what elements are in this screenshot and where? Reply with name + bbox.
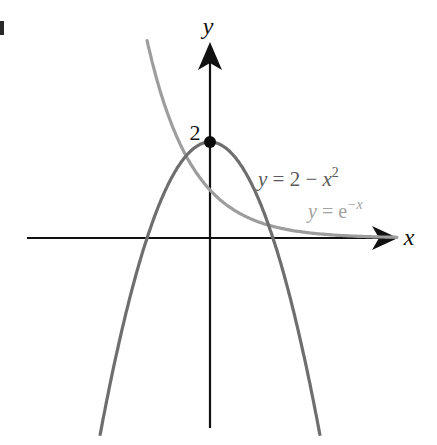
exponential-label: y = e−x — [306, 197, 363, 223]
parabola-label-lhs: y — [256, 167, 268, 191]
y-axis-label: y — [201, 13, 214, 39]
parabola-label-eq: = 2 − — [267, 167, 322, 191]
function-graph: y x 2 y = 2 − x2 y = e−x — [0, 0, 437, 445]
y-intercept-point — [204, 136, 216, 148]
parabola-label: y = 2 − x2 — [256, 165, 339, 191]
exponential-label-lhs: y — [306, 200, 317, 223]
parabola-label-sup: 2 — [332, 165, 339, 180]
exponential-label-eq: = e — [317, 200, 347, 222]
y-intercept-label: 2 — [190, 120, 201, 145]
exponential-label-sup: −x — [347, 197, 363, 212]
x-axis-label: x — [403, 224, 415, 250]
